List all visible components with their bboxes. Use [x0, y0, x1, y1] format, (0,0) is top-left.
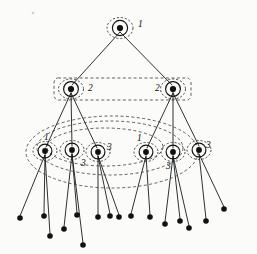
node-level2-left-label: 2: [88, 83, 93, 93]
node-level2-right-label: 2: [155, 83, 160, 93]
leaf-node[interactable]: [203, 218, 209, 224]
leaf-node[interactable]: [177, 218, 183, 224]
tree-diagram-canvas: 1 2 2 1 3: [0, 0, 257, 254]
leaf-node[interactable]: [74, 212, 80, 218]
node-level2-left-dot: [68, 86, 74, 92]
leaf-node[interactable]: [107, 213, 113, 219]
edge-root-left: [72, 32, 120, 85]
edge-b1-l1: [131, 156, 146, 214]
leaf-node[interactable]: [47, 233, 53, 239]
edge-b-b1: [147, 93, 173, 148]
leaf-node[interactable]: [116, 214, 122, 220]
edge-root-right: [120, 32, 172, 85]
leaf-node[interactable]: [41, 213, 47, 219]
tree-diagram-figure: 1 2 2 1 3: [0, 0, 257, 254]
leaf-node[interactable]: [128, 213, 134, 219]
leaf-node[interactable]: [95, 214, 101, 220]
edge-b2-l2: [173, 156, 180, 219]
paper-speck: [32, 12, 35, 15]
edge-a1-l1: [20, 155, 45, 216]
edge-a-a2: [71, 93, 72, 146]
node-level3-a1-label: 1: [44, 132, 49, 142]
leaf-node[interactable]: [80, 242, 86, 248]
node-level3-a3-label: 3: [106, 142, 112, 152]
edge-group: [20, 32, 224, 243]
edge-a-a1: [46, 93, 71, 147]
leaf-node[interactable]: [162, 221, 168, 227]
cluster-level3-inner: [47, 128, 163, 166]
node-level3-b3-dot: [196, 147, 202, 153]
edge-b3-l2: [199, 154, 224, 207]
leaf-node[interactable]: [147, 214, 153, 220]
leaf-node[interactable]: [221, 206, 227, 212]
node-root[interactable]: 1: [107, 18, 143, 39]
edge-b1-l2: [146, 156, 150, 215]
edge-a2-l1: [64, 154, 72, 227]
node-root-label: 1: [138, 19, 143, 29]
edge-b-b3: [173, 93, 199, 146]
node-level3-b2-label: 3: [165, 161, 171, 171]
leaf-node[interactable]: [17, 215, 23, 221]
node-root-dot: [117, 25, 123, 31]
edge-b2-l3: [173, 156, 189, 226]
node-level3-a2-label: 3: [80, 158, 86, 168]
node-level2-left[interactable]: 2: [59, 79, 94, 99]
edge-a-a3: [71, 93, 97, 148]
node-level3-a3[interactable]: 3: [86, 142, 112, 161]
edge-a1-l3: [45, 155, 50, 234]
leaf-node[interactable]: [61, 226, 67, 232]
node-level2-right-dot: [170, 86, 176, 92]
node-level3-b3-label: 3: [205, 140, 211, 150]
node-level3-b2-dot: [170, 149, 176, 155]
node-level3-b3[interactable]: 3: [187, 140, 211, 159]
node-level3-b1-label: 1: [137, 133, 142, 143]
node-level3-a1-dot: [42, 148, 48, 154]
leaf-node[interactable]: [186, 225, 192, 231]
node-level3-a2-dot: [69, 147, 75, 153]
edge-a1-l2: [44, 155, 45, 214]
edge-b3-l1: [199, 154, 206, 219]
node-level3-b1-dot: [143, 149, 149, 155]
node-level3-a3-dot: [95, 149, 101, 155]
node-level2-right[interactable]: 2: [155, 79, 186, 99]
